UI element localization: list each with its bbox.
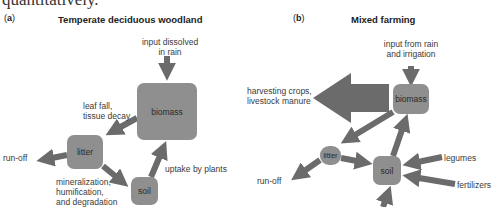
arrow-harvesting — [313, 73, 389, 123]
label-input-dissolved-rain: input dissolved in rain — [140, 37, 200, 57]
node-litter-b: litter — [320, 146, 341, 165]
arrow-fertilizers — [413, 177, 455, 184]
node-biomass-a: biomass — [137, 83, 197, 140]
arrow-run-off-a — [47, 155, 67, 159]
label-uptake-by-plants: uptake by plants — [165, 164, 227, 174]
label-harvesting: harvesting crops, livestock manure — [247, 86, 312, 106]
panel-b-title: Mixed farming — [351, 14, 415, 25]
arrow-biomass-to-litter-b — [350, 112, 393, 138]
node-soil-b: soil — [373, 156, 401, 185]
arrow-litter-to-soil-b — [341, 158, 362, 162]
label-input-rain-irrigation: input from rain and irrigation — [381, 39, 441, 59]
arrow-run-off-b — [300, 160, 320, 174]
arrow-soil-to-biomass-b — [393, 124, 404, 156]
label-run-off-a: run-off — [3, 153, 27, 163]
panel-b-tag: (b) — [293, 13, 305, 23]
arrow-bottom-input-b — [383, 196, 387, 207]
label-fertilizers: fertilizers — [457, 180, 491, 190]
node-soil-a: soil — [131, 177, 158, 205]
label-run-off-b: run-off — [257, 176, 281, 186]
panel-a-title: Temperate deciduous woodland — [58, 14, 202, 25]
label-legumes: legumes — [444, 153, 476, 163]
node-litter-a: litter — [67, 135, 103, 169]
arrow-uptake-a — [151, 151, 162, 177]
node-biomass-b: biomass — [393, 84, 429, 114]
label-mineralization: mineralization, humification, and degrad… — [56, 177, 117, 207]
label-leaf-fall: leaf fall, tissue decay — [83, 101, 130, 121]
panel-a-tag: (a) — [4, 13, 15, 23]
arrow-legumes — [413, 157, 442, 163]
